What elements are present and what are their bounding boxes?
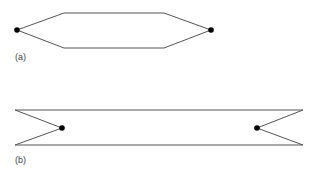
node-b-right xyxy=(254,125,260,131)
node-a-left xyxy=(14,27,20,33)
diagram-canvas xyxy=(0,0,321,176)
shape-b-notched-band xyxy=(15,110,303,145)
node-b-left xyxy=(59,125,65,131)
shape-a-hexagon xyxy=(17,13,211,48)
node-a-right xyxy=(208,27,214,33)
label-a: (a) xyxy=(15,52,26,62)
label-b: (b) xyxy=(15,155,26,165)
